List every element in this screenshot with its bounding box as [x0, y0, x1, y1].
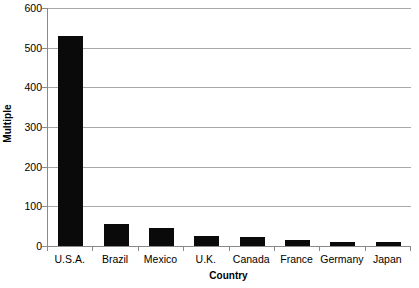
y-axis-tick-label: 100	[14, 201, 42, 211]
y-axis-tick-mark	[42, 246, 47, 247]
y-axis-title-label: Multiple	[2, 104, 13, 143]
y-axis-tick-mark	[42, 8, 47, 9]
bar-brazil	[104, 224, 129, 246]
y-axis-tick-label: 600	[14, 3, 42, 13]
y-axis-tick-label: 200	[14, 162, 42, 172]
bar-mexico	[149, 228, 174, 246]
x-axis-tick-marks	[47, 246, 410, 252]
x-axis-tick-label: Canada	[229, 253, 274, 265]
x-axis-tick-labels: U.S.A.BrazilMexicoU.K.CanadaFranceGerman…	[47, 253, 410, 269]
x-axis-tick-mark	[138, 246, 139, 251]
x-axis-tick-mark	[274, 246, 275, 251]
bar-chart: Multiple 0100200300400500600 U.S.A.Brazi…	[0, 0, 419, 288]
y-axis-tick-label: 400	[14, 82, 42, 92]
y-axis-tick-mark	[42, 206, 47, 207]
x-axis-tick-mark	[183, 246, 184, 251]
x-axis-tick-label: Brazil	[92, 253, 137, 265]
y-axis-tick-mark	[42, 127, 47, 128]
y-axis-tick-label: 300	[14, 122, 42, 132]
bar-canada	[240, 237, 265, 246]
y-axis-tick-mark	[42, 48, 47, 49]
y-axis-tick-mark	[42, 167, 47, 168]
x-axis-tick-mark	[365, 246, 366, 251]
bar-u-s-a	[58, 36, 83, 246]
x-axis-title: Country	[47, 270, 410, 282]
x-axis-tick-label: Germany	[319, 253, 364, 265]
x-axis-tick-mark	[319, 246, 320, 251]
bars-layer	[48, 8, 411, 246]
plot-area	[47, 8, 410, 246]
x-axis-tick-label: France	[274, 253, 319, 265]
y-axis-tick-mark	[42, 87, 47, 88]
x-axis-tick-mark	[229, 246, 230, 251]
y-axis-title: Multiple	[0, 0, 14, 246]
y-axis-tick-label: 500	[14, 43, 42, 53]
x-axis-tick-mark	[410, 246, 411, 251]
x-axis-tick-mark	[47, 246, 48, 251]
x-axis-tick-label: Japan	[365, 253, 410, 265]
y-axis-tick-label: 0	[14, 241, 42, 251]
x-axis-tick-label: U.K.	[183, 253, 228, 265]
bar-u-k	[194, 236, 219, 246]
x-axis-tick-label: Mexico	[138, 253, 183, 265]
x-axis-tick-mark	[92, 246, 93, 251]
y-axis-tick-labels: 0100200300400500600	[14, 0, 42, 254]
x-axis-tick-label: U.S.A.	[47, 253, 92, 265]
